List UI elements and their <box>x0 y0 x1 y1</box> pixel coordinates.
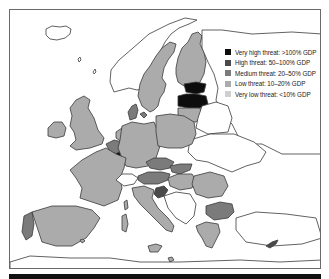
legend-swatch-medium <box>225 70 231 76</box>
bottom-bar <box>9 274 321 279</box>
region-estonia[interactable] <box>184 82 206 94</box>
map-frame: Very high threat: >100% GDP High threat:… <box>9 9 321 269</box>
region-sardinia <box>122 214 128 232</box>
legend-label: Very high threat: >100% GDP <box>235 49 316 56</box>
region-malta[interactable] <box>168 257 174 262</box>
region-balearic-islands <box>80 239 85 243</box>
region-north-africa <box>10 256 321 269</box>
region-denmark[interactable] <box>128 104 138 120</box>
region-belarus <box>196 102 232 134</box>
legend-item-very-high: Very high threat: >100% GDP <box>225 47 316 57</box>
region-ireland[interactable] <box>48 122 66 138</box>
region-czech-republic[interactable] <box>146 158 174 170</box>
region-hungary[interactable] <box>168 174 196 190</box>
legend-label: Medium threat: 20–50% GDP <box>235 70 316 77</box>
map-legend: Very high threat: >100% GDP High threat:… <box>225 47 316 100</box>
region-turkey <box>236 212 321 246</box>
region-austria[interactable] <box>138 172 170 184</box>
legend-swatch-high <box>225 60 231 66</box>
region-france[interactable] <box>70 148 126 206</box>
region-slovakia[interactable] <box>170 164 192 174</box>
legend-item-medium: Medium threat: 20–50% GDP <box>225 68 316 78</box>
region-romania[interactable] <box>192 172 228 198</box>
region-greece[interactable] <box>196 222 220 248</box>
legend-item-very-low: Very low threat: <10% GDP <box>225 89 316 99</box>
legend-label: High threat: 50–100% GDP <box>235 59 310 66</box>
region-italy[interactable] <box>132 186 174 232</box>
legend-label: Very low threat: <10% GDP <box>235 91 311 98</box>
legend-label: Low threat: 10–20% GDP <box>235 80 305 87</box>
region-portugal[interactable] <box>22 212 34 240</box>
region-sicily <box>148 244 162 252</box>
legend-item-low: Low threat: 10–20% GDP <box>225 79 316 89</box>
region-denmark-islands <box>140 112 147 118</box>
region-iceland[interactable] <box>46 26 71 40</box>
region-shetland <box>93 69 96 74</box>
region-corsica <box>124 200 128 210</box>
legend-item-high: High threat: 50–100% GDP <box>225 58 316 68</box>
legend-swatch-low <box>225 81 231 87</box>
region-united-kingdom[interactable] <box>70 96 104 150</box>
legend-swatch-very-high <box>225 49 231 55</box>
region-spain[interactable] <box>32 206 100 246</box>
legend-swatch-very-low <box>225 91 231 97</box>
region-bulgaria[interactable] <box>206 202 234 220</box>
region-faroe <box>78 57 81 62</box>
region-finland[interactable] <box>176 32 206 86</box>
